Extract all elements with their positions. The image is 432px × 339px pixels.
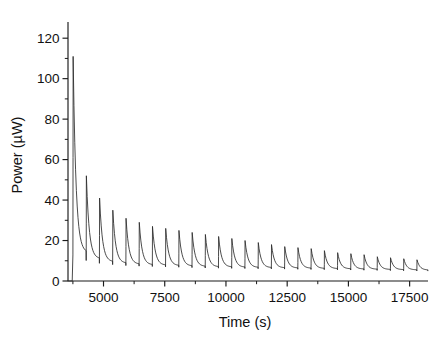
y-tick-label: 120 [37, 31, 60, 46]
data-series-line [68, 56, 428, 281]
y-tick-label: 100 [37, 71, 60, 86]
x-tick-label: 17500 [391, 290, 429, 305]
axes-group [68, 22, 428, 281]
y-tick-label: 80 [44, 112, 59, 127]
chart-figure: 0204060801001205000750010000125001500017… [0, 0, 432, 339]
y-tick-label: 0 [52, 274, 60, 289]
x-tick-label: 15000 [330, 290, 368, 305]
y-tick-label: 20 [44, 233, 59, 248]
x-tick-label: 12500 [268, 290, 306, 305]
y-tick-label: 40 [44, 193, 59, 208]
tick-labels-group: 0204060801001205000750010000125001500017… [37, 31, 428, 305]
x-axis-title: Time (s) [219, 314, 272, 330]
y-axis-title: Power (µW) [9, 117, 25, 194]
power-vs-time-plot: 0204060801001205000750010000125001500017… [0, 0, 432, 339]
ticks-group [63, 38, 410, 286]
x-tick-label: 7500 [150, 290, 180, 305]
y-tick-label: 60 [44, 152, 59, 167]
x-tick-label: 5000 [88, 290, 118, 305]
x-tick-label: 10000 [207, 290, 245, 305]
data-series-group [68, 56, 428, 281]
